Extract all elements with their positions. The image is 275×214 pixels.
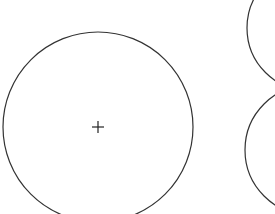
top-right-circle <box>247 0 275 91</box>
circle-diagram <box>0 0 275 214</box>
center-crosshair-icon <box>92 121 104 133</box>
bottom-right-circle <box>245 85 275 214</box>
